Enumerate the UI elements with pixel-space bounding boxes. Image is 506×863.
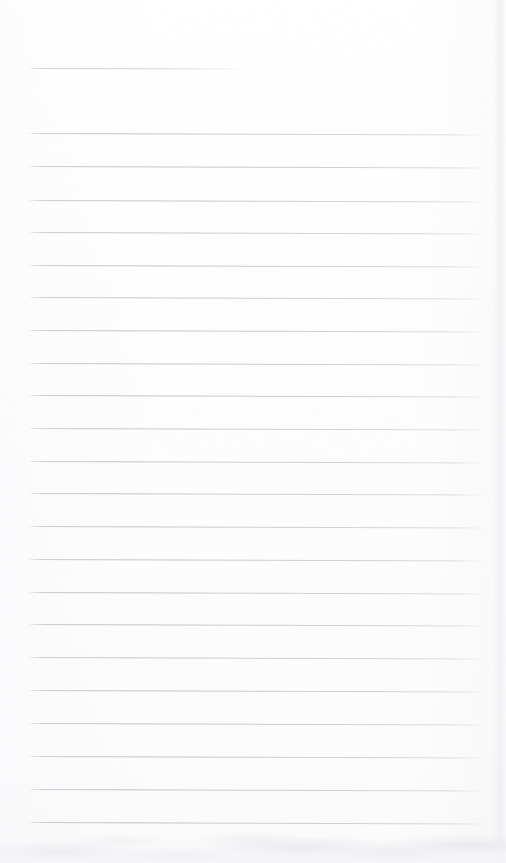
ruled-line	[28, 166, 487, 168]
ruled-line	[28, 657, 487, 659]
ruled-line	[28, 526, 487, 528]
ruled-line	[28, 624, 487, 626]
ruled-line	[28, 789, 487, 792]
ruled-line	[28, 363, 487, 365]
ruled-line	[28, 461, 487, 463]
ruled-line	[28, 723, 487, 725]
ruled-line	[28, 428, 487, 430]
ruled-line	[28, 330, 487, 332]
ruled-line	[28, 592, 487, 595]
ruled-line	[28, 756, 487, 758]
ruled-line	[28, 200, 487, 202]
ruled-line	[28, 297, 487, 299]
ruled-line	[28, 265, 487, 268]
ruled-line	[28, 395, 487, 398]
ruled-line-short	[28, 68, 243, 70]
ruled-line	[28, 232, 487, 234]
scanned-page	[0, 0, 506, 863]
ruled-line	[28, 559, 487, 561]
ruled-line	[28, 493, 487, 496]
ruled-line	[28, 822, 487, 824]
ruled-lines-group	[0, 0, 506, 863]
ruled-line	[28, 690, 487, 693]
ruled-line	[28, 133, 487, 136]
